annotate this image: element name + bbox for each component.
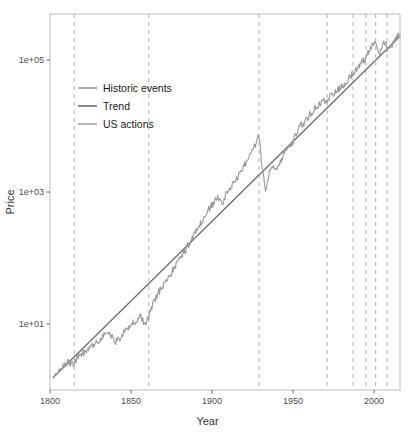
x-tick-label-1900: 1900	[202, 396, 222, 406]
chart-container: 1e+011e+031e+05 18001850190019502000 Yea…	[0, 0, 415, 432]
y-tick-label-1e+05: 1e+05	[19, 55, 44, 65]
x-axis: 18001850190019502000	[40, 390, 384, 406]
price-vs-year-log-line-chart: 1e+011e+031e+05 18001850190019502000 Yea…	[0, 0, 415, 432]
x-tick-label-1800: 1800	[40, 396, 60, 406]
x-tick-label-1850: 1850	[121, 396, 141, 406]
plot-panel-background	[50, 14, 400, 390]
y-axis: 1e+011e+031e+05	[19, 55, 50, 329]
x-tick-label-2000: 2000	[364, 396, 384, 406]
legend-label-historic-events: Historic events	[103, 82, 172, 94]
x-tick-label-1950: 1950	[283, 396, 303, 406]
x-axis-title: Year	[196, 415, 219, 427]
legend-label-trend: Trend	[103, 100, 130, 112]
y-tick-label-1e+01: 1e+01	[19, 319, 44, 329]
y-tick-label-1e+03: 1e+03	[19, 187, 44, 197]
legend-label-us-actions: US actions	[103, 118, 154, 130]
y-axis-title: Price	[4, 189, 16, 214]
